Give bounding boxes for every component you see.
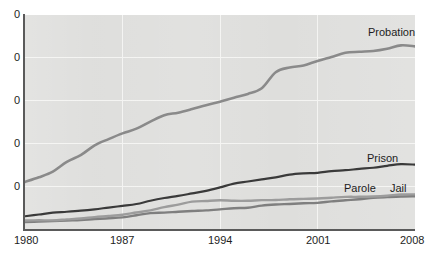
- y-tick-label: 0: [4, 9, 20, 20]
- y-tick-label: 0: [4, 138, 20, 149]
- line-chart: 0 0 0 0 0 1980 1987 1994 2001 2008 Proba…: [0, 0, 430, 253]
- series-line-parole: [25, 194, 415, 220]
- x-tick-label: 1980: [14, 234, 38, 246]
- x-tick-label: 1987: [110, 234, 134, 246]
- series-label-parole: Parole: [344, 182, 376, 194]
- x-tick-label: 2008: [400, 234, 424, 246]
- plot-area: [25, 15, 415, 230]
- series-label-jail: Jail: [390, 182, 407, 194]
- x-tick-label: 2001: [306, 234, 330, 246]
- y-tick-label: 0: [4, 95, 20, 106]
- y-axis: [23, 14, 25, 231]
- series-lines: [25, 15, 415, 230]
- y-tick-label: 0: [4, 181, 20, 192]
- series-label-prison: Prison: [367, 152, 398, 164]
- series-label-probation: Probation: [368, 26, 415, 38]
- x-tick-label: 1994: [208, 234, 232, 246]
- y-tick-label: 0: [4, 52, 20, 63]
- x-axis: [23, 229, 415, 231]
- series-line-probation: [25, 45, 415, 182]
